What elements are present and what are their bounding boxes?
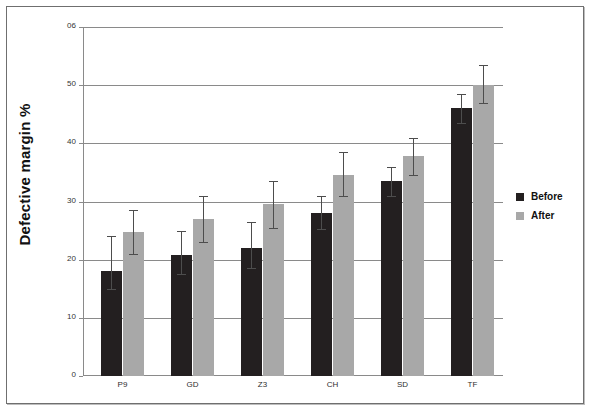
error-bar-cap-upper xyxy=(177,231,186,232)
plot-area: 0102030405006 P9GDZ3CHSDTF xyxy=(83,27,503,376)
error-bar-line xyxy=(133,210,134,254)
error-bar-cap-lower xyxy=(409,175,418,176)
gridline xyxy=(83,143,503,144)
error-bar-cap-upper xyxy=(409,138,418,139)
bar-group xyxy=(381,27,424,376)
chart-page: Defective margin % 0102030405006 P9GDZ3C… xyxy=(0,0,592,420)
bar-after[interactable] xyxy=(473,85,494,376)
error-bar-line xyxy=(203,196,204,243)
legend-label-after: After xyxy=(531,211,554,221)
bar-before[interactable] xyxy=(311,213,332,376)
y-axis-tick xyxy=(79,260,83,261)
y-axis-tick-label: 30 xyxy=(50,197,76,205)
legend-item-after[interactable]: After xyxy=(516,211,563,221)
error-bar-line xyxy=(483,65,484,103)
error-bar-cap-upper xyxy=(129,210,138,211)
error-bar-cap-lower xyxy=(317,229,326,230)
gridline xyxy=(83,318,503,319)
y-axis-tick xyxy=(79,143,83,144)
y-axis-tick-label: 50 xyxy=(50,80,76,88)
error-bar-cap-lower xyxy=(177,274,186,275)
error-bar-cap-lower xyxy=(479,103,488,104)
bar-group xyxy=(171,27,214,376)
bar-before[interactable] xyxy=(451,108,472,376)
x-axis-tick-label: SD xyxy=(363,380,443,389)
gridline xyxy=(83,260,503,261)
legend-label-before: Before xyxy=(531,192,563,202)
x-axis-tick-label: TF xyxy=(433,380,513,389)
legend-item-before[interactable]: Before xyxy=(516,192,563,202)
x-axis-line xyxy=(83,375,503,376)
y-axis-title-text: Defective margin % xyxy=(17,104,34,246)
error-bar-line xyxy=(413,138,414,176)
error-bar-line xyxy=(251,222,252,269)
y-axis-tick xyxy=(79,202,83,203)
error-bar-cap-lower xyxy=(457,123,466,124)
error-bar-cap-upper xyxy=(269,181,278,182)
x-axis-tick-label: CH xyxy=(293,380,373,389)
error-bar-cap-lower xyxy=(107,289,116,290)
y-axis-tick-label: 0 xyxy=(50,371,76,379)
legend-swatch-before-icon xyxy=(516,193,524,201)
bar-group xyxy=(451,27,494,376)
gridline xyxy=(83,85,503,86)
error-bar-line xyxy=(391,167,392,196)
error-bar-line xyxy=(461,94,462,123)
error-bar-cap-upper xyxy=(457,94,466,95)
error-bar-cap-lower xyxy=(199,242,208,243)
x-axis-tick-label: Z3 xyxy=(223,380,303,389)
y-axis-title: Defective margin % xyxy=(14,0,36,349)
bar-after[interactable] xyxy=(403,156,424,376)
error-bar-cap-lower xyxy=(247,268,256,269)
bar-group xyxy=(241,27,284,376)
legend-swatch-after-icon xyxy=(516,212,524,220)
error-bar-cap-upper xyxy=(317,196,326,197)
x-axis-tick-label: P9 xyxy=(83,380,163,389)
y-axis-tick xyxy=(79,27,83,28)
error-bar-line xyxy=(273,181,274,228)
y-axis-tick-label: 20 xyxy=(50,255,76,263)
error-bar-cap-upper xyxy=(479,65,488,66)
error-bar-cap-lower xyxy=(129,254,138,255)
bar-group xyxy=(101,27,144,376)
error-bar-cap-lower xyxy=(339,196,348,197)
chart-legend: Before After xyxy=(516,192,563,230)
error-bar-cap-lower xyxy=(269,228,278,229)
error-bar-cap-upper xyxy=(199,196,208,197)
error-bar-cap-upper xyxy=(107,236,116,237)
gridline xyxy=(83,27,503,28)
y-axis-tick xyxy=(79,318,83,319)
error-bar-line xyxy=(321,196,322,229)
error-bar-cap-upper xyxy=(247,222,256,223)
bar-after[interactable] xyxy=(333,175,354,376)
error-bar-cap-upper xyxy=(387,167,396,168)
y-axis-tick-label: 40 xyxy=(50,138,76,146)
y-axis-tick-label: 10 xyxy=(50,313,76,321)
bar-group xyxy=(311,27,354,376)
y-axis-tick xyxy=(79,85,83,86)
y-axis-tick-label: 06 xyxy=(50,22,76,30)
error-bar-line xyxy=(181,231,182,275)
bar-after[interactable] xyxy=(263,204,284,376)
error-bar-line xyxy=(343,152,344,196)
bar-before[interactable] xyxy=(381,181,402,376)
x-axis-tick-label: GD xyxy=(153,380,233,389)
gridline xyxy=(83,202,503,203)
error-bar-cap-upper xyxy=(339,152,348,153)
error-bar-cap-lower xyxy=(387,196,396,197)
y-axis-tick xyxy=(79,376,83,377)
error-bar-line xyxy=(111,236,112,288)
